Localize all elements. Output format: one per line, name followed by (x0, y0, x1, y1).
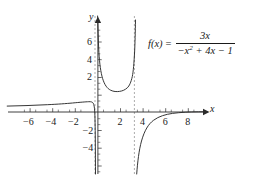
plot-canvas (0, 0, 253, 179)
x-tick-label-2: 2 (118, 117, 123, 127)
x-tick-label-minus2: −2 (68, 117, 79, 127)
function-equation: f(x) = 3x −x2 + 4x − 1 (148, 30, 235, 57)
x-tick-label-6: 6 (163, 117, 168, 127)
y-tick-label-minus2: −2 (83, 126, 94, 136)
x-tick-label-4: 4 (140, 117, 145, 127)
curve-right-branch (137, 112, 208, 174)
equation-fraction-bar (176, 43, 235, 44)
curve-left-branch (7, 102, 95, 174)
y-tick-label-6: 6 (87, 37, 92, 47)
x-axis-label: x (210, 104, 214, 114)
equation-lhs: f(x) (148, 38, 163, 49)
x-tick-label-minus6: −6 (23, 117, 34, 127)
equation-denominator: −x2 + 4x − 1 (176, 45, 235, 57)
function-graph-figure: −6 −4 −2 2 4 6 8 6 4 2 −2 −4 x y f(x) = … (0, 0, 253, 179)
equation-fraction: 3x −x2 + 4x − 1 (176, 30, 235, 57)
y-tick-label-2: 2 (87, 72, 92, 82)
equation-numerator: 3x (198, 30, 212, 42)
x-axis-major-ticks (30, 108, 188, 112)
y-axis-label: y (89, 12, 93, 22)
x-axis (8, 108, 210, 115)
denominator-post: + 4x − 1 (193, 45, 233, 56)
denominator-pre: −x (178, 45, 190, 56)
x-tick-label-8: 8 (185, 117, 190, 127)
equation-equals: = (166, 38, 172, 49)
x-tick-label-minus4: −4 (46, 117, 57, 127)
y-tick-label-minus4: −4 (83, 143, 94, 153)
curve-middle-branch (98, 16, 136, 92)
y-tick-label-4: 4 (87, 55, 92, 65)
